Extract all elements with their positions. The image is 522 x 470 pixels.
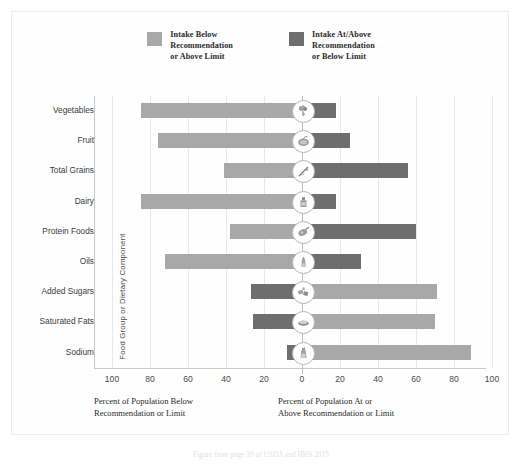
x-tick-label: 100 [485,374,499,384]
legend-label-below: Intake Below Recommendation or Above Lim… [170,30,233,62]
grain-icon [292,160,315,183]
x-axis-ticks: 10080604020020406080100 [100,374,480,388]
category-label: Protein Foods [0,224,94,239]
category-label: Sodium [0,345,94,360]
x-tick-label: 20 [259,374,269,384]
category-label: Added Sugars [0,284,94,299]
legend-swatch-at-above [289,32,304,46]
x-tick-label: 80 [145,374,155,384]
bar-segment-right [302,224,416,239]
category-label: Total Grains [0,163,94,178]
bar-row: Oils [100,247,480,277]
bar-row: Added Sugars [100,277,480,307]
category-label: Fruit [0,133,94,148]
gridline [492,96,493,368]
saturated-fats-icon [292,311,315,334]
x-tick-label: 40 [221,374,231,384]
protein-icon [292,221,315,244]
bar-row: Fruit [100,126,480,156]
added-sugars-icon [292,281,315,304]
legend-item-at-above: Intake At/Above Recommendation or Below … [289,30,375,62]
x-tick-label: 80 [449,374,459,384]
chart-legend: Intake Below Recommendation or Above Lim… [0,30,522,62]
x-tick-label: 20 [335,374,345,384]
broccoli-icon [292,100,315,123]
legend-label-at-above: Intake At/Above Recommendation or Below … [312,30,375,62]
caption-below: Percent of Population Below Recommendati… [94,396,244,420]
dairy-icon [292,191,315,214]
bar-segment-right [302,314,435,329]
bar-segment-left [165,254,302,269]
category-label: Oils [0,254,94,269]
legend-swatch-below [147,32,162,46]
bar-segment-right [302,345,471,360]
y-axis-line [94,96,95,368]
fruit-icon [292,130,315,153]
axis-captions: Percent of Population Below Recommendati… [0,396,522,420]
bar-segment-right [302,163,408,178]
category-label: Dairy [0,194,94,209]
bar-segment-right [302,284,437,299]
bar-row: Protein Foods [100,217,480,247]
figure-caption: Figure from page 39 of USDA and HHS 2015 [0,450,522,459]
x-tick-label: 100 [105,374,119,384]
sodium-icon [292,342,315,365]
bar-row: Saturated Fats [100,307,480,337]
x-axis-line [94,368,486,369]
bar-segment-left [141,103,303,118]
bar-row: Sodium [100,338,480,368]
bar-segment-left [158,133,302,148]
bar-rows: VegetablesFruitTotal GrainsDairyProtein … [100,96,480,368]
legend-item-below: Intake Below Recommendation or Above Lim… [147,30,233,62]
bar-row: Total Grains [100,156,480,186]
x-tick-label: 0 [300,374,305,384]
category-label: Saturated Fats [0,314,94,329]
bar-segment-left [224,163,302,178]
chart-page: Intake Below Recommendation or Above Lim… [0,0,522,470]
caption-at-above: Percent of Population At or Above Recomm… [278,396,428,420]
x-tick-label: 40 [373,374,383,384]
bar-row: Dairy [100,187,480,217]
bar-row: Vegetables [100,96,480,126]
plot-area: Food Group or Dietary Component Vegetabl… [100,96,480,368]
x-tick-label: 60 [183,374,193,384]
category-label: Vegetables [0,103,94,118]
oils-icon [292,251,315,274]
x-tick-label: 60 [411,374,421,384]
bar-segment-left [141,194,303,209]
